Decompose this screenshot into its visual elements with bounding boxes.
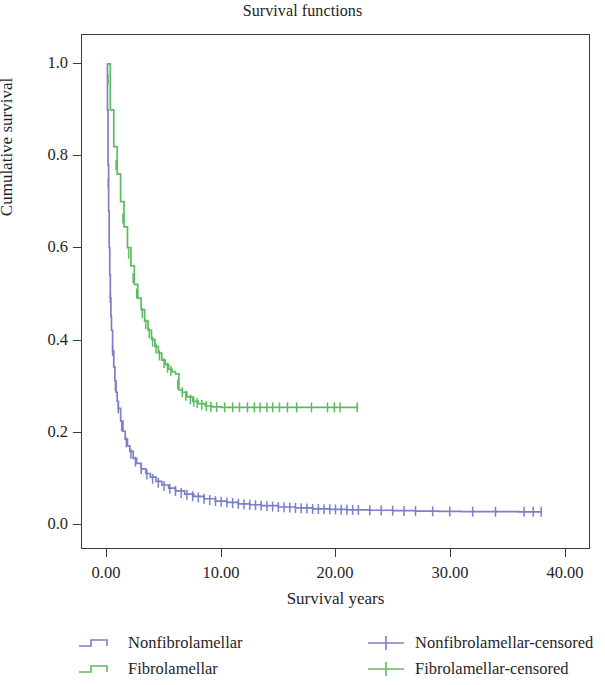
- y-axis-title: Cumulative survival: [0, 2, 17, 292]
- x-axis-title: Survival years: [81, 589, 590, 609]
- x-tick-label-0: 0.00: [92, 563, 121, 583]
- y-tick-label-0-8: 0.8: [20, 145, 68, 165]
- survival-curves-svg: [82, 35, 589, 548]
- x-tick-mark: [221, 549, 222, 557]
- y-tick-mark: [73, 524, 81, 525]
- legend-label-fibrolamellar: Fibrolamellar: [128, 659, 218, 679]
- chart-legend: Nonfibrolamellar Fibrolamellar Nonfibrol…: [70, 630, 600, 682]
- series-fibrolamellar: [107, 64, 358, 412]
- legend-label-fibrolamellar-censored: Fibrolamellar-censored: [415, 659, 569, 679]
- x-tick-label-20: 20.00: [316, 563, 353, 583]
- legend-item-nonfibrolamellar: Nonfibrolamellar: [78, 630, 328, 656]
- x-tick-mark: [565, 549, 566, 557]
- y-tick-label-0-6: 0.6: [20, 237, 68, 257]
- y-tick-label-0-2: 0.2: [20, 422, 68, 442]
- x-tick-label-10: 10.00: [202, 563, 239, 583]
- y-tick-mark: [73, 63, 81, 64]
- x-tick-mark: [335, 549, 336, 557]
- y-tick-label-1-0: 1.0: [20, 53, 68, 73]
- y-tick-label-0-0: 0.0: [20, 514, 68, 534]
- plus-marker-icon-fibrolamellar: [365, 659, 407, 679]
- survival-functions-figure: Survival functions Cumulative survival 1…: [0, 0, 605, 685]
- step-line-icon-fibrolamellar: [78, 659, 120, 679]
- x-tick-mark: [450, 549, 451, 557]
- series-nonfibrolamellar: [107, 64, 541, 517]
- y-tick-label-0-4: 0.4: [20, 330, 68, 350]
- legend-label-nonfibrolamellar: Nonfibrolamellar: [128, 633, 243, 653]
- x-tick-label-30: 30.00: [431, 563, 468, 583]
- x-tick-mark: [106, 549, 107, 557]
- x-tick-label-40: 40.00: [546, 563, 583, 583]
- step-line-icon-nonfibrolamellar: [78, 633, 120, 653]
- chart-title: Survival functions: [0, 2, 605, 20]
- y-tick-mark: [73, 340, 81, 341]
- legend-item-fibrolamellar: Fibrolamellar: [78, 656, 328, 682]
- plus-marker-icon-nonfibrolamellar: [365, 633, 407, 653]
- y-tick-mark: [73, 155, 81, 156]
- legend-label-nonfibrolamellar-censored: Nonfibrolamellar-censored: [415, 633, 593, 653]
- legend-item-nonfibrolamellar-censored: Nonfibrolamellar-censored: [365, 630, 605, 656]
- plot-area: [81, 34, 590, 549]
- y-tick-mark: [73, 432, 81, 433]
- y-tick-mark: [73, 247, 81, 248]
- legend-item-fibrolamellar-censored: Fibrolamellar-censored: [365, 656, 605, 682]
